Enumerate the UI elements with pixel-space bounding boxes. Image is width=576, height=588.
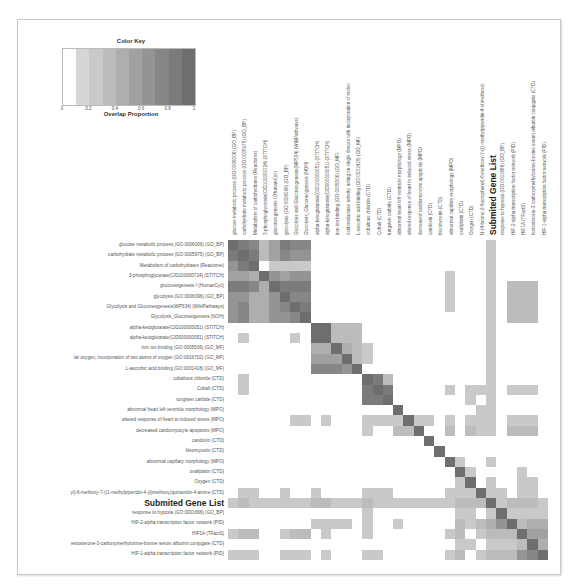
heatmap-cell <box>280 385 290 395</box>
row-label: yl)-6-methoxy-7-((1-methylpiperidin-4-yl… <box>20 488 224 498</box>
heatmap-cell <box>373 405 383 415</box>
row-label: glucose metabolic process (GO:0006006) (… <box>20 240 224 250</box>
heatmap-cell <box>342 374 352 384</box>
heatmap-cell <box>538 539 548 549</box>
heatmap-cell <box>414 281 424 291</box>
heatmap-cell <box>249 488 259 498</box>
heatmap-cell <box>445 519 455 529</box>
heatmap-cell <box>383 426 393 436</box>
heatmap-cell <box>269 436 279 446</box>
heatmap-cell <box>403 261 413 271</box>
heatmap-cell <box>311 323 321 333</box>
heatmap-cell <box>517 374 527 384</box>
heatmap-cell <box>414 436 424 446</box>
column-label: Metabolism of carbohydrates (Reactome) <box>249 30 259 235</box>
heatmap-cell <box>373 343 383 353</box>
heatmap-cell <box>300 343 310 353</box>
heatmap-cell <box>383 385 393 395</box>
heatmap-cell <box>228 550 238 560</box>
heatmap-cell <box>445 281 455 291</box>
heatmap-cell <box>228 292 238 302</box>
heatmap-cell <box>238 467 248 477</box>
heatmap-cell <box>507 446 517 456</box>
heatmap-cell <box>476 261 486 271</box>
row-label: glycolysis (GO:0006096) (GO_BP) <box>20 292 224 302</box>
heatmap-cell <box>311 395 321 405</box>
heatmap-cell <box>486 457 496 467</box>
heatmap-cell <box>403 343 413 353</box>
heatmap-cell <box>527 426 537 436</box>
heatmap-cell <box>527 302 537 312</box>
heatmap-cell <box>517 292 527 302</box>
heatmap-cell <box>352 374 362 384</box>
column-label: alpha-ketoglutarate(CID000000051) (STITC… <box>321 30 331 235</box>
heatmap-cell <box>352 498 362 508</box>
heatmap-cell <box>403 415 413 425</box>
heatmap-cell <box>249 261 259 271</box>
heatmap-cell <box>311 250 321 260</box>
heatmap-cell <box>300 519 310 529</box>
heatmap-cell <box>228 467 238 477</box>
heatmap-cell <box>373 323 383 333</box>
heatmap-cell <box>362 539 372 549</box>
heatmap-cell <box>290 519 300 529</box>
heatmap-cell <box>249 364 259 374</box>
heatmap-cell <box>321 240 331 250</box>
heatmap-cell <box>517 529 527 539</box>
heatmap-cell <box>290 261 300 271</box>
heatmap-cell <box>445 250 455 260</box>
heatmap-cell <box>393 271 403 281</box>
heatmap-cell <box>228 539 238 549</box>
heatmap-cell <box>517 271 527 281</box>
heatmap-cell <box>321 343 331 353</box>
heatmap-cell <box>434 395 444 405</box>
heatmap-cell <box>507 508 517 518</box>
heatmap-cell <box>249 519 259 529</box>
heatmap-cell <box>321 405 331 415</box>
heatmap-cell <box>249 312 259 322</box>
heatmap-cell <box>269 250 279 260</box>
heatmap-cell <box>403 539 413 549</box>
heatmap-cell <box>290 488 300 498</box>
heatmap-cell <box>445 508 455 518</box>
heatmap-cell <box>311 488 321 498</box>
heatmap-cell <box>445 436 455 446</box>
heatmap-cell <box>321 364 331 374</box>
heatmap-cell <box>300 261 310 271</box>
heatmap-cell <box>434 477 444 487</box>
heatmap-cell <box>496 426 506 436</box>
heatmap-cell <box>496 343 506 353</box>
heatmap-cell <box>321 292 331 302</box>
heatmap-cell <box>259 395 269 405</box>
heatmap-cell <box>383 488 393 498</box>
heatmap-cell <box>455 405 465 415</box>
heatmap-cell <box>342 364 352 374</box>
heatmap-cell <box>517 508 527 518</box>
heatmap-cell <box>352 488 362 498</box>
color-key-bin <box>155 49 168 105</box>
heatmap-cell <box>424 364 434 374</box>
heatmap-cell <box>476 240 486 250</box>
heatmap-cell <box>321 488 331 498</box>
heatmap-cell <box>486 312 496 322</box>
heatmap-cell <box>300 550 310 560</box>
heatmap-cell <box>352 250 362 260</box>
heatmap-cell <box>280 436 290 446</box>
heatmap-cell <box>445 457 455 467</box>
heatmap-cell <box>321 415 331 425</box>
heatmap-cell <box>228 271 238 281</box>
heatmap-cell <box>496 539 506 549</box>
row-label: HIF-1-alpha transcription factor network… <box>20 549 224 559</box>
heatmap-cell <box>507 250 517 260</box>
heatmap-cell <box>383 529 393 539</box>
heatmap-cell <box>331 519 341 529</box>
heatmap-cell <box>527 415 537 425</box>
heatmap-cell <box>331 550 341 560</box>
heatmap-cell <box>342 550 352 560</box>
heatmap-cell <box>259 343 269 353</box>
heatmap-cell <box>496 302 506 312</box>
heatmap-cell <box>538 395 548 405</box>
heatmap-cell <box>517 436 527 446</box>
heatmap-cell <box>362 519 372 529</box>
heatmap-cell <box>331 343 341 353</box>
